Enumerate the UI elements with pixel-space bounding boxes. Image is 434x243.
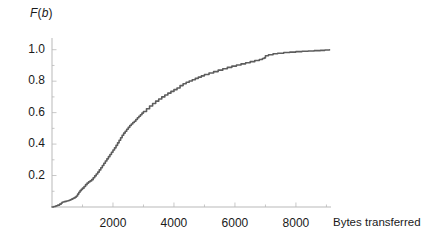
tick-marks — [52, 50, 326, 207]
y-axis-tick-label: 0.6 — [19, 105, 45, 119]
ecdf-curve — [52, 50, 329, 207]
y-axis-tick-label: 0.2 — [19, 168, 45, 182]
x-axis-tick-label: 6000 — [209, 216, 261, 230]
y-axis-tick-label: 0.8 — [19, 73, 45, 87]
x-axis-tick-label: 2000 — [87, 216, 139, 230]
x-axis-tick-label: 4000 — [148, 216, 200, 230]
plot-canvas — [0, 0, 434, 243]
chart-figure: F(b) Bytes transferred 0.20.40.60.81.020… — [0, 0, 434, 243]
y-axis-tick-label: 1.0 — [19, 42, 45, 56]
x-axis-tick-label: 8000 — [270, 216, 322, 230]
y-axis-tick-label: 0.4 — [19, 136, 45, 150]
